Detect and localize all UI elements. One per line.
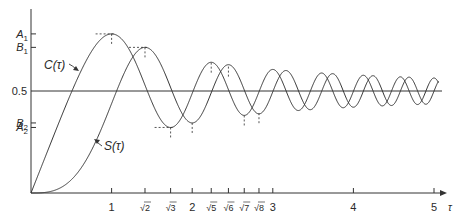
y-tick-label: B1: [16, 41, 28, 56]
x-tick-label: 5: [431, 201, 437, 213]
x-tick-label: √8: [254, 203, 264, 213]
fresnel-integrals-chart: τ 1√2√32√5√6√7√8345 A1B10.5B2A2 C(τ) S(τ…: [0, 0, 458, 220]
extremum-marker: [155, 127, 173, 139]
x-tick-label: 2: [189, 201, 195, 213]
c-tau-curve: [31, 34, 438, 193]
x-tick-label: √5: [206, 203, 216, 213]
x-axis-label: τ: [448, 202, 453, 213]
annotations: C(τ) S(τ): [44, 58, 124, 153]
x-ticks: 1√2√32√5√6√7√8345: [109, 188, 438, 213]
y-ticks: A1B10.5B2A2: [12, 28, 36, 137]
y-tick-label: 0.5: [12, 85, 27, 97]
s-tau-label: S(τ): [104, 139, 124, 153]
s-tau-curve: [31, 47, 438, 193]
x-tick-label: √6: [223, 203, 233, 213]
x-tick-label: √7: [239, 203, 249, 213]
curves: [31, 34, 438, 193]
x-tick-label: 3: [270, 201, 276, 213]
x-tick-label: 1: [109, 201, 115, 213]
x-tick-label: √2: [140, 203, 150, 213]
x-tick-label: √3: [166, 203, 176, 213]
x-tick-label: 4: [350, 201, 356, 213]
axes: τ: [31, 9, 453, 213]
x-axis-arrow: [440, 190, 447, 196]
c-tau-label: C(τ): [44, 58, 65, 72]
